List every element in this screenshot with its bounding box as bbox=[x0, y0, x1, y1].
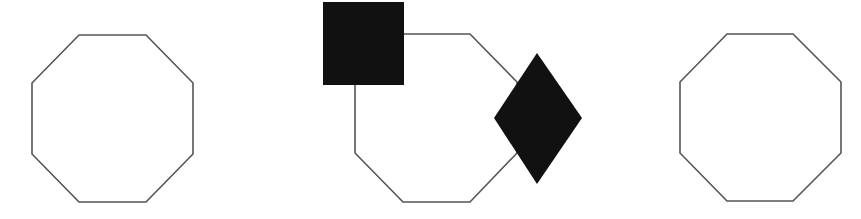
octagon-left bbox=[32, 35, 193, 202]
diagram-canvas bbox=[0, 0, 861, 219]
octagon-right bbox=[680, 34, 841, 201]
filled-square bbox=[323, 2, 404, 85]
